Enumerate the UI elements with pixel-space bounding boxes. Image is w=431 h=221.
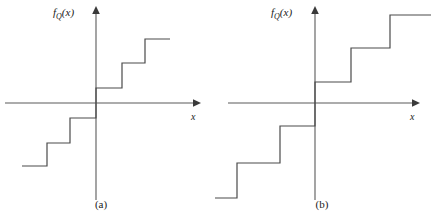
figure-background: [0, 0, 431, 221]
panel-b-x-axis-label: x: [409, 111, 415, 122]
panel-b-caption: (b): [316, 198, 329, 211]
panel-a-caption: (a): [95, 198, 108, 211]
panel-b-y-axis-label-arg: (x): [280, 6, 293, 19]
figure-canvas: fQ(x) x (a) fQ(x) x (b): [0, 0, 431, 221]
panel-a-y-axis-label-arg: (x): [62, 6, 75, 19]
quantizer-figure: fQ(x) x (a) fQ(x) x (b): [0, 0, 431, 221]
panel-a-x-axis-label: x: [190, 111, 196, 122]
